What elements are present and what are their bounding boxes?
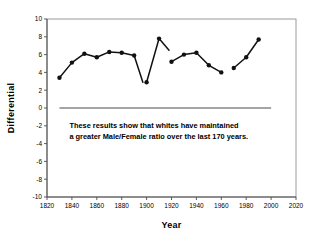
- x-tick-label: 1900: [139, 202, 154, 209]
- data-point-marker: [82, 52, 86, 56]
- y-tick-label: 6: [38, 51, 42, 58]
- data-point-marker: [95, 55, 99, 59]
- y-tick-label: 8: [38, 33, 42, 40]
- differential-line-chart: 1086420-2-4-6-8-10 182018401860188019001…: [0, 0, 331, 242]
- y-tick-label: -8: [36, 176, 42, 183]
- data-point-marker: [256, 37, 260, 41]
- y-tick-label: 2: [38, 87, 42, 94]
- x-tick-label: 1980: [239, 202, 254, 209]
- annotation-line-2: a greater Male/Female ratio over the las…: [69, 132, 248, 141]
- x-tick-label: 1840: [65, 202, 80, 209]
- y-tick-label: -6: [36, 158, 42, 165]
- y-tick-label: -2: [36, 122, 42, 129]
- x-tick-label: 1940: [189, 202, 204, 209]
- x-tick-label: 1820: [40, 202, 55, 209]
- x-tick-label: 1920: [164, 202, 179, 209]
- data-point-marker: [182, 52, 186, 56]
- x-tick-label: 1960: [214, 202, 229, 209]
- data-point-marker: [120, 51, 124, 55]
- data-point-marker: [144, 80, 148, 84]
- data-point-marker: [157, 36, 161, 40]
- data-point-marker: [244, 55, 248, 59]
- chart-container: 1086420-2-4-6-8-10 182018401860188019001…: [0, 0, 331, 242]
- y-axis-title: Differential: [6, 83, 16, 134]
- y-tick-label: -4: [36, 140, 42, 147]
- x-axis-title: Year: [161, 220, 181, 230]
- y-tick-label: 10: [35, 15, 43, 22]
- data-point-marker: [70, 60, 74, 64]
- x-tick-label: 1860: [90, 202, 105, 209]
- data-point-marker: [194, 51, 198, 55]
- y-tick-label: -10: [33, 193, 43, 200]
- data-point-marker: [107, 50, 111, 54]
- annotation-line-1: These results show that whites have main…: [69, 121, 239, 130]
- data-point-marker: [132, 53, 136, 57]
- x-tick-label: 1880: [114, 202, 129, 209]
- y-tick-label: 0: [38, 104, 42, 111]
- data-point-marker: [232, 66, 236, 70]
- data-point-marker: [219, 70, 223, 74]
- data-point-marker: [207, 63, 211, 67]
- x-tick-label: 2000: [264, 202, 279, 209]
- y-tick-label: 4: [38, 69, 42, 76]
- data-point-marker: [169, 60, 173, 64]
- x-tick-label: 2020: [289, 202, 304, 209]
- data-point-marker: [57, 76, 61, 80]
